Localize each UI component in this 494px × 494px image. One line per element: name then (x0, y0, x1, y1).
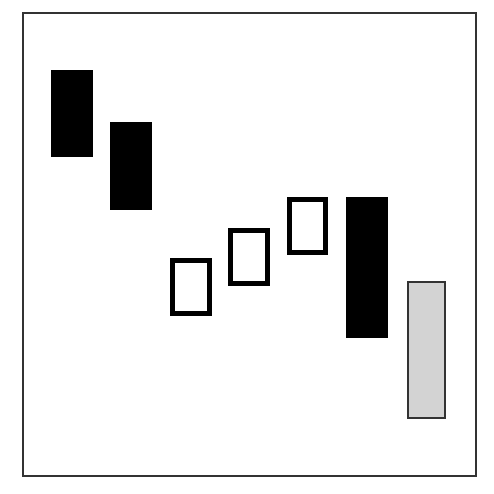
candle-body-3-hollow (170, 258, 212, 316)
candle-body-5-hollow (287, 197, 328, 255)
candle-body-4-hollow (228, 228, 270, 286)
chart-canvas (0, 0, 494, 494)
candle-body-6-filled (346, 197, 388, 338)
candle-body-1-filled (51, 70, 93, 157)
candle-body-7-gray (407, 281, 446, 419)
candle-body-2-filled (110, 122, 152, 210)
